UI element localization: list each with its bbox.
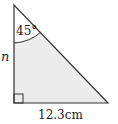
triangle-diagram: 45° n 12.3cm (0, 0, 118, 124)
angle-label: 45° (16, 24, 37, 38)
base-length-label: 12.3cm (38, 108, 83, 122)
side-label-n: n (1, 49, 9, 64)
